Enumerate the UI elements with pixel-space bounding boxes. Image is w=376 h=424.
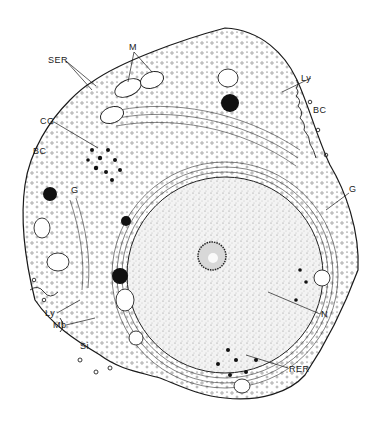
label-BC-left: BC bbox=[33, 147, 47, 156]
label-SER: SER bbox=[48, 56, 68, 65]
nucleus bbox=[127, 177, 323, 373]
label-N: N bbox=[321, 310, 328, 319]
label-RER: RER bbox=[289, 365, 310, 374]
label-M: M bbox=[129, 43, 137, 52]
label-Ly-bottom: Ly bbox=[45, 309, 55, 318]
label-BC-right: BC bbox=[313, 106, 327, 115]
label-CG: CG bbox=[40, 117, 55, 126]
label-Ly-top: Ly bbox=[301, 74, 311, 83]
label-G-left: G bbox=[71, 186, 79, 195]
label-G-right: G bbox=[349, 185, 357, 194]
nucleolus-center bbox=[208, 253, 218, 263]
label-Si: Si bbox=[80, 342, 89, 351]
label-Mb: Mb bbox=[53, 321, 67, 330]
